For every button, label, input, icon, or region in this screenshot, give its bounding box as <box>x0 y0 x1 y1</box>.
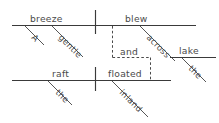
word-blew: blew <box>125 13 148 24</box>
word-a: A <box>30 32 41 43</box>
word-gentle: gentle <box>57 32 84 59</box>
word-raft: raft <box>52 68 69 79</box>
word-across: across <box>145 32 173 60</box>
word-breeze: breeze <box>30 13 63 24</box>
sentence-diagram-svg: breeze blew A gentle across lake the and <box>0 0 219 123</box>
sentence-diagram-canvas: breeze blew A gentle across lake the and <box>0 0 219 123</box>
clause-2-group: raft floated the inland <box>12 67 171 117</box>
word-lake: lake <box>179 45 199 56</box>
word-inland: inland <box>118 87 145 114</box>
word-the-lake: the <box>187 63 205 81</box>
word-the-raft: the <box>54 87 72 105</box>
word-floated: floated <box>108 68 142 79</box>
word-and: and <box>120 46 138 57</box>
